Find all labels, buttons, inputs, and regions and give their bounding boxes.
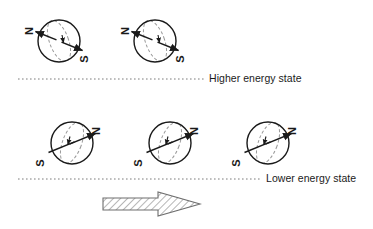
higher-energy-row: N S N S [23, 18, 186, 65]
sphere-low-2: N S [132, 120, 200, 167]
sphere-low-3: N S [230, 120, 298, 167]
magnetic-field-arrow [103, 192, 200, 216]
pole-label-north: N [286, 127, 298, 135]
pole-label-south: S [230, 159, 242, 166]
sphere-low-1: N S [34, 120, 102, 167]
pole-label-north: N [23, 27, 35, 35]
lower-energy-row: N S N S N S [34, 120, 298, 167]
pole-label-north: N [90, 127, 102, 135]
pole-label-north: N [188, 127, 200, 135]
pole-label-south: S [34, 159, 46, 166]
lower-energy-state-label: Lower energy state [266, 172, 356, 184]
pole-label-north: N [119, 27, 131, 35]
spin-state-diagram: N S N S N S N S [0, 0, 373, 229]
sphere-high-1: N S [23, 18, 90, 65]
spin-state-diagram-page: N S N S N S N S [0, 0, 373, 229]
pole-label-south: S [132, 159, 144, 166]
higher-energy-state-label: Higher energy state [209, 72, 302, 84]
pole-label-south: S [78, 55, 90, 62]
pole-label-south: S [174, 55, 186, 62]
sphere-high-2: N S [119, 18, 186, 65]
